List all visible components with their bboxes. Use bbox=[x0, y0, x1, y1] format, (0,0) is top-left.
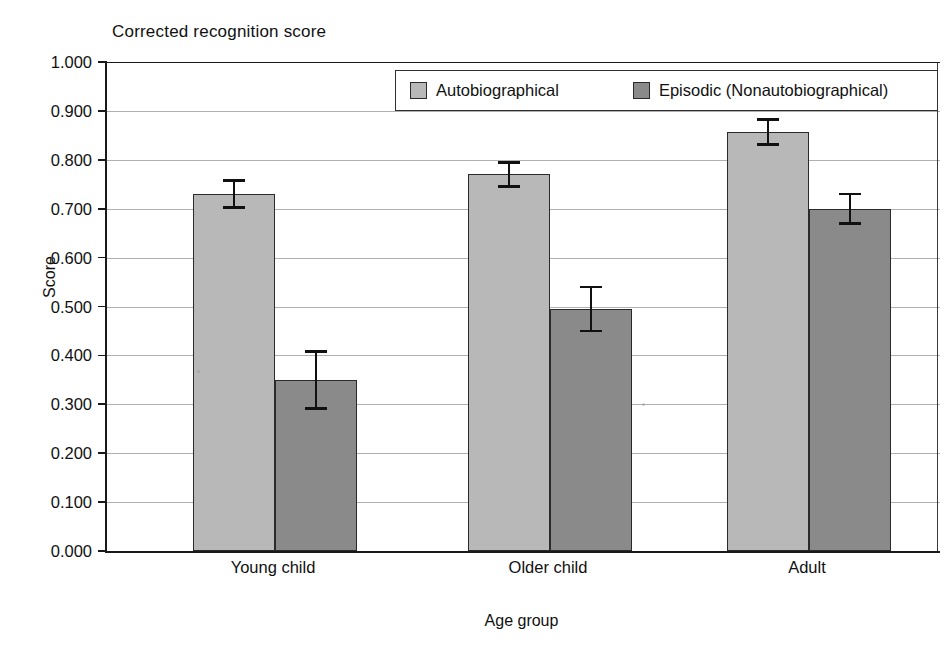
error-bar-cap-lower bbox=[757, 143, 779, 146]
error-bar-cap-lower bbox=[498, 185, 520, 188]
error-bar-cap-lower bbox=[305, 407, 327, 410]
y-axis-tick-labels: 1.0000.9000.8000.7000.6000.5000.4000.300… bbox=[0, 62, 92, 551]
error-bar-line bbox=[233, 180, 236, 207]
bar bbox=[550, 309, 632, 551]
error-bar-cap-lower bbox=[223, 206, 245, 209]
y-axis-tick-label: 0.000 bbox=[0, 543, 92, 559]
scan-speckle bbox=[642, 403, 645, 406]
y-axis-tick-label: 0.700 bbox=[0, 201, 92, 217]
y-axis-tick-label: 0.500 bbox=[0, 299, 92, 315]
x-axis-title: Age group bbox=[105, 612, 938, 630]
y-axis-tick bbox=[98, 550, 107, 552]
y-axis-tick bbox=[98, 257, 107, 259]
bar bbox=[809, 209, 891, 551]
x-axis-category-label: Adult bbox=[685, 558, 929, 577]
bar-chart-figure: Corrected recognition score Score 1.0000… bbox=[0, 0, 945, 651]
x-axis-category-label: Young child bbox=[151, 558, 395, 577]
error-bar-cap-lower bbox=[839, 222, 861, 225]
y-axis-tick bbox=[98, 61, 107, 63]
chart-title: Corrected recognition score bbox=[112, 22, 326, 42]
gridline bbox=[107, 62, 940, 63]
y-axis-tick bbox=[98, 355, 107, 357]
y-axis-tick bbox=[98, 306, 107, 308]
error-bar-line bbox=[508, 162, 511, 186]
y-axis-tick-label: 0.900 bbox=[0, 103, 92, 119]
error-bar-line bbox=[590, 287, 593, 331]
gridline bbox=[107, 111, 940, 112]
bar bbox=[193, 194, 275, 551]
y-axis-tick-label: 0.200 bbox=[0, 445, 92, 461]
y-axis-tick-label: 0.800 bbox=[0, 152, 92, 168]
legend-label: Autobiographical bbox=[436, 81, 559, 100]
y-axis-tick-label: 1.000 bbox=[0, 54, 92, 70]
error-bar-cap-lower bbox=[580, 330, 602, 333]
error-bar-cap-upper bbox=[757, 118, 779, 121]
x-axis-category-labels: Young childOlder childAdult bbox=[105, 558, 938, 588]
y-axis-tick bbox=[98, 110, 107, 112]
y-axis-tick-label: 0.600 bbox=[0, 250, 92, 266]
error-bar-cap-upper bbox=[498, 161, 520, 164]
error-bar-line bbox=[315, 351, 318, 408]
legend-swatch-icon bbox=[410, 82, 427, 99]
error-bar-cap-upper bbox=[839, 193, 861, 196]
plot-area bbox=[105, 62, 940, 553]
legend-entry-episodic: Episodic (Nonautobiographical) bbox=[633, 81, 888, 100]
chart-legend: Autobiographical Episodic (Nonautobiogra… bbox=[395, 70, 938, 111]
y-axis-tick-label: 0.100 bbox=[0, 494, 92, 510]
gridline bbox=[107, 160, 940, 161]
legend-entry-autobiographical: Autobiographical bbox=[410, 81, 559, 100]
legend-label: Episodic (Nonautobiographical) bbox=[659, 81, 888, 100]
y-axis-tick bbox=[98, 452, 107, 454]
error-bar-cap-upper bbox=[305, 350, 327, 353]
y-axis-tick bbox=[98, 159, 107, 161]
y-axis-tick-label: 0.400 bbox=[0, 347, 92, 363]
error-bar-cap-upper bbox=[580, 286, 602, 289]
scan-speckle bbox=[197, 370, 200, 373]
y-axis-tick bbox=[98, 208, 107, 210]
error-bar-line bbox=[849, 194, 852, 223]
legend-swatch-icon bbox=[633, 82, 650, 99]
bar bbox=[727, 132, 809, 551]
error-bar-cap-upper bbox=[223, 179, 245, 182]
error-bar-line bbox=[767, 120, 770, 144]
bar bbox=[468, 174, 550, 551]
y-axis-tick-label: 0.300 bbox=[0, 396, 92, 412]
y-axis-tick bbox=[98, 501, 107, 503]
y-axis-tick bbox=[98, 403, 107, 405]
x-axis-category-label: Older child bbox=[426, 558, 670, 577]
